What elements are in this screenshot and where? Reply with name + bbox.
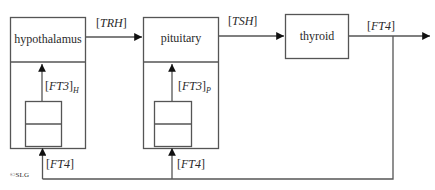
tsh-label: [TSH] [228, 15, 257, 27]
thyroid-label: thyroid [285, 30, 349, 42]
hypothalamus-label: hypothalamus [10, 33, 86, 45]
pituitary-label: pituitary [143, 32, 219, 44]
trh-label: [TRH] [96, 17, 127, 29]
ft4-output-label: [FT4] [367, 20, 395, 32]
ft3-h-label: [FT3]H [45, 80, 79, 92]
copyright-label: ©SLG [10, 171, 29, 179]
ft3-p-label: [FT3]P [178, 80, 211, 92]
ft4-feedback-line [43, 36, 394, 179]
ft4-feedback-pituitary-label: [FT4] [177, 158, 205, 170]
ft4-feedback-hypothalamus-label: [FT4] [46, 158, 74, 170]
